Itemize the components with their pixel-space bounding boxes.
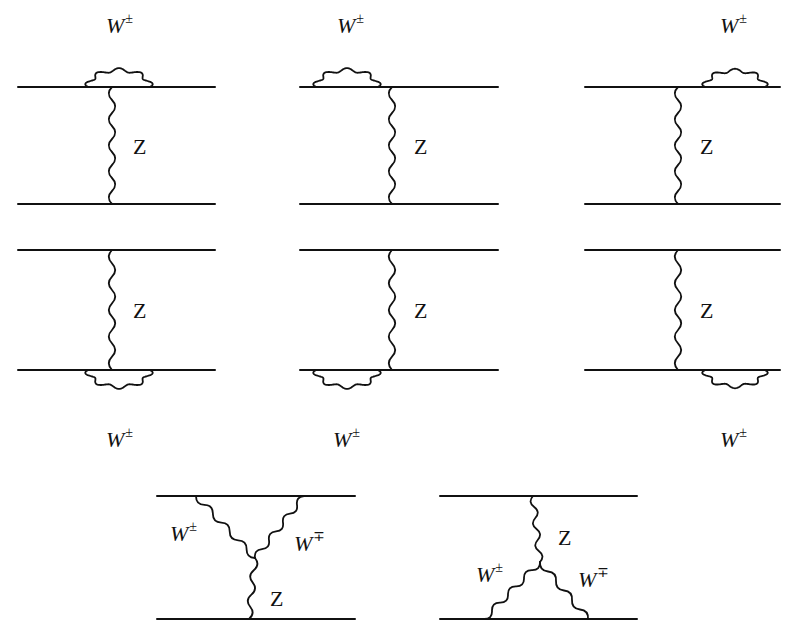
w-boson-label: W±	[476, 563, 503, 586]
w-symbol: W	[294, 531, 312, 556]
w-boson-label: W±	[106, 428, 133, 451]
w-symbol: W	[106, 13, 124, 38]
z-boson-propagator	[531, 496, 543, 562]
diagram-d6	[585, 250, 780, 388]
w-plus-minus-propagator	[196, 496, 255, 558]
w-mp-boson-label: W∓	[294, 532, 325, 555]
w-boson-label: W±	[170, 522, 197, 545]
diagram-d3	[585, 69, 780, 204]
z-boson-propagator	[389, 250, 395, 370]
diagram-d7	[157, 496, 355, 619]
z-boson-propagator	[389, 87, 395, 204]
z-boson-label: Z	[700, 300, 713, 322]
z-boson-label: Z	[133, 136, 146, 158]
charge-superscript: ±	[189, 519, 197, 534]
charge-superscript: ∓	[597, 565, 609, 580]
w-boson-loop	[313, 68, 380, 87]
w-symbol: W	[720, 427, 738, 452]
w-symbol: W	[720, 13, 738, 38]
w-boson-loop	[85, 370, 152, 389]
w-boson-label: W±	[333, 428, 360, 451]
charge-superscript: ±	[739, 425, 747, 440]
z-boson-label: Z	[133, 300, 146, 322]
w-boson-loop	[702, 69, 768, 87]
z-boson-label: Z	[414, 300, 427, 322]
w-boson-loop	[313, 370, 380, 389]
z-boson-label: Z	[414, 136, 427, 158]
w-boson-loop	[85, 68, 152, 87]
diagram-d4	[18, 250, 215, 389]
charge-superscript: ±	[739, 11, 747, 26]
z-boson-propagator	[109, 250, 115, 370]
w-mp-boson-label: W∓	[578, 568, 609, 591]
z-boson-propagator	[248, 558, 258, 619]
z-boson-propagator	[675, 87, 681, 204]
w-symbol: W	[170, 521, 188, 546]
z-boson-label: Z	[700, 136, 713, 158]
w-boson-label: W±	[337, 14, 364, 37]
w-symbol: W	[476, 562, 494, 587]
w-boson-label: W±	[106, 14, 133, 37]
diagram-d5	[300, 250, 498, 389]
diagram-d2	[300, 68, 498, 204]
z-boson-propagator	[675, 250, 681, 370]
diagram-d8	[440, 496, 637, 619]
charge-superscript: ±	[356, 11, 364, 26]
charge-superscript: ±	[495, 560, 503, 575]
w-symbol: W	[337, 13, 355, 38]
w-boson-label: W±	[720, 14, 747, 37]
z-boson-label: Z	[558, 527, 571, 549]
w-boson-loop	[702, 370, 768, 388]
w-boson-label: W±	[720, 428, 747, 451]
charge-superscript: ±	[352, 425, 360, 440]
w-symbol: W	[333, 427, 351, 452]
z-boson-label: Z	[270, 588, 283, 610]
w-symbol: W	[578, 567, 596, 592]
charge-superscript: ±	[125, 11, 133, 26]
z-boson-propagator	[109, 87, 115, 204]
w-symbol: W	[106, 427, 124, 452]
diagram-d1	[18, 68, 215, 204]
charge-superscript: ±	[125, 425, 133, 440]
charge-superscript: ∓	[313, 529, 325, 544]
feynman-diagram-canvas	[0, 0, 794, 643]
